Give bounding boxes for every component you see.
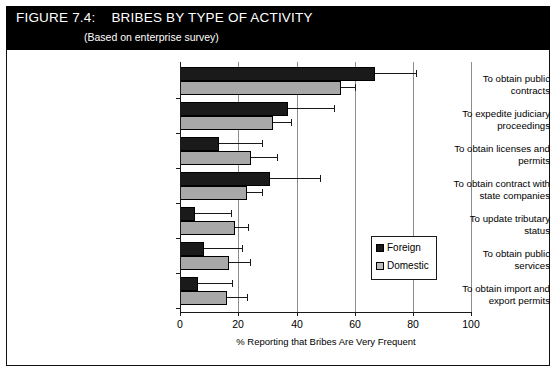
x-tick-0: [180, 312, 181, 316]
error-cap-domestic-7: [247, 294, 248, 301]
x-tick-label-20: 20: [223, 318, 253, 330]
category-label-2: To expedite judiciary proceedings: [380, 108, 556, 131]
error-line-foreign-5: [195, 213, 231, 214]
error-cap-domestic-3: [277, 154, 278, 161]
x-tick-80: [413, 312, 414, 316]
error-cap-domestic-1: [355, 84, 356, 91]
error-cap-foreign-7: [232, 280, 233, 287]
error-line-domestic-1: [341, 87, 355, 88]
bar-domestic-1: [180, 81, 341, 95]
category-label-7-line2: export permits: [380, 295, 550, 307]
bar-foreign-1: [180, 67, 375, 81]
x-axis-title: % Reporting that Bribes Are Very Frequen…: [180, 336, 472, 347]
gridline-40: [297, 62, 298, 312]
error-line-domestic-4: [247, 192, 262, 193]
error-cap-foreign-4: [320, 175, 321, 182]
x-tick-label-60: 60: [340, 318, 370, 330]
legend-swatch-foreign-icon: [376, 244, 384, 252]
y-axis-line: [180, 62, 181, 314]
bar-domestic-2: [180, 116, 273, 130]
category-label-1: To obtain public contracts: [380, 73, 556, 96]
y-tick-5: [176, 238, 180, 239]
bar-foreign-4: [180, 172, 270, 186]
bar-foreign-5: [180, 207, 195, 221]
y-tick-7: [176, 308, 180, 309]
category-label-5-line2: status: [380, 225, 550, 237]
x-tick-label-40: 40: [282, 318, 312, 330]
legend-label-foreign: Foreign: [387, 242, 421, 253]
error-cap-domestic-4: [262, 189, 263, 196]
figure-title-bar: FIGURE 7.4: BRIBES BY TYPE OF ACTIVITY (…: [6, 6, 550, 50]
legend-swatch-domestic-icon: [376, 262, 384, 270]
y-tick-2: [176, 133, 180, 134]
category-label-7: To obtain import and export permits: [380, 283, 556, 306]
bar-domestic-5: [180, 221, 235, 235]
figure-number: FIGURE 7.4:: [16, 10, 95, 25]
category-label-7-line1: To obtain import and: [380, 283, 550, 295]
y-tick-6: [176, 273, 180, 274]
error-cap-foreign-3: [262, 140, 263, 147]
category-label-1-line1: To obtain public: [380, 73, 550, 85]
legend-item-foreign: Foreign: [376, 242, 421, 253]
x-tick-label-100: 100: [456, 318, 486, 330]
x-tick-20: [238, 312, 239, 316]
bar-foreign-2: [180, 102, 288, 116]
x-tick-label-0: 0: [165, 318, 195, 330]
legend-item-domestic: Domestic: [376, 260, 429, 271]
error-cap-domestic-6: [250, 259, 251, 266]
error-line-foreign-4: [270, 178, 320, 179]
error-line-domestic-3: [251, 157, 277, 158]
error-cap-foreign-5: [231, 210, 232, 217]
y-tick-4: [176, 203, 180, 204]
category-label-5-line1: To update tributary: [380, 213, 550, 225]
error-line-foreign-6: [204, 248, 242, 249]
figure-subtitle: (Based on enterprise survey): [84, 31, 219, 43]
error-line-foreign-3: [219, 143, 262, 144]
x-axis-line: [180, 312, 472, 313]
page-title: FIGURE 7.4: BRIBES BY TYPE OF ACTIVITY: [16, 10, 313, 25]
x-tick-100: [471, 312, 472, 316]
bar-domestic-3: [180, 151, 251, 165]
legend-label-domestic: Domestic: [387, 260, 429, 271]
error-line-domestic-7: [227, 297, 247, 298]
bar-foreign-7: [180, 277, 198, 291]
figure-page: FIGURE 7.4: BRIBES BY TYPE OF ACTIVITY (…: [0, 0, 556, 372]
error-line-domestic-5: [235, 227, 248, 228]
figure-title-text: BRIBES BY TYPE OF ACTIVITY: [111, 10, 312, 25]
error-line-foreign-2: [288, 108, 334, 109]
error-cap-foreign-2: [334, 105, 335, 112]
category-label-2-line1: To expedite judiciary: [380, 108, 550, 120]
category-label-2-line2: proceedings: [380, 120, 550, 132]
bar-foreign-6: [180, 242, 204, 256]
error-line-domestic-2: [273, 122, 291, 123]
error-line-domestic-6: [229, 262, 250, 263]
bar-domestic-7: [180, 291, 227, 305]
y-tick-1: [176, 98, 180, 99]
error-cap-domestic-5: [248, 224, 249, 231]
error-line-foreign-7: [198, 283, 232, 284]
bar-domestic-6: [180, 256, 229, 270]
bar-foreign-3: [180, 137, 219, 151]
x-tick-40: [297, 312, 298, 316]
error-cap-foreign-6: [242, 245, 243, 252]
chart-legend: Foreign Domestic: [371, 236, 437, 280]
category-label-4: To obtain contract with state companies: [380, 178, 556, 201]
x-tick-label-80: 80: [398, 318, 428, 330]
category-label-1-line2: contracts: [380, 85, 550, 97]
category-label-4-line1: To obtain contract with: [380, 178, 550, 190]
x-tick-60: [355, 312, 356, 316]
error-cap-domestic-2: [291, 119, 292, 126]
category-label-5: To update tributary status: [380, 213, 556, 236]
y-tick-3: [176, 168, 180, 169]
category-label-4-line2: state companies: [380, 190, 550, 202]
gridline-60: [355, 62, 356, 312]
bar-domestic-4: [180, 186, 247, 200]
category-label-3-line2: permits: [380, 155, 550, 167]
category-label-3-line1: To obtain licenses and: [380, 143, 550, 155]
category-label-3: To obtain licenses and permits: [380, 143, 556, 166]
